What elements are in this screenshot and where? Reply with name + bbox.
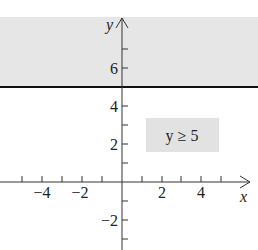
inequality-graph: −4 −2 2 4 6 4 2 −2 y x y ≥ 5 [0, 0, 258, 250]
inequality-label: y ≥ 5 [166, 127, 199, 145]
x-tick-label: −2 [71, 184, 88, 201]
x-tick-label: −4 [33, 184, 50, 201]
x-tick-label: 2 [158, 184, 166, 201]
y-tick-label: 6 [110, 60, 118, 77]
plot-area: −4 −2 2 4 6 4 2 −2 y x y ≥ 5 [0, 0, 258, 250]
x-axis-label: x [239, 188, 247, 205]
y-tick-label: 4 [110, 98, 118, 115]
x-tick-label: 4 [197, 184, 205, 201]
y-tick-label: 2 [110, 136, 118, 153]
y-axis-label: y [104, 16, 114, 34]
y-tick-label: −2 [101, 212, 118, 229]
shaded-region [0, 17, 258, 87]
